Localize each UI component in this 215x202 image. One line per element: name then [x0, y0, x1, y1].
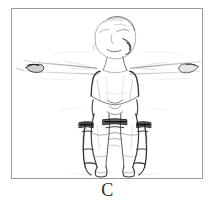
anatomical-sketch	[12, 9, 202, 178]
left-leg-brace	[79, 122, 96, 167]
sketch-right-foot	[123, 167, 145, 177]
figure-caption: C	[0, 180, 215, 200]
sketch-head	[93, 16, 136, 58]
sketch-pelvis-hips	[92, 100, 138, 116]
figure-frame	[11, 8, 203, 179]
sketch-faint-background-strokes	[36, 52, 190, 175]
sketch-torso	[91, 71, 138, 105]
sketch-left-foot	[85, 167, 107, 177]
sketch-pelvic-band	[103, 119, 127, 147]
right-leg-brace	[134, 122, 151, 167]
